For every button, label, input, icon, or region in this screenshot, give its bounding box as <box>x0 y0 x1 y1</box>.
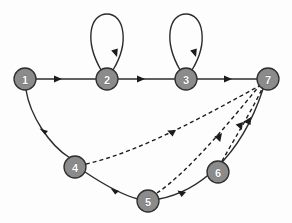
node-1[interactable]: 1 <box>14 68 36 90</box>
edge-3-self-loop[interactable] <box>170 14 202 70</box>
edge-2-self-loop[interactable] <box>91 14 123 70</box>
node-3-label: 3 <box>183 74 189 86</box>
graph-figure: 1 2 3 4 5 6 7 <box>0 0 292 223</box>
edge-5-to-7-solid[interactable] <box>159 89 263 199</box>
arrowhead-2-self-loop <box>111 49 118 57</box>
edge-4-to-7-dashed[interactable] <box>86 86 259 164</box>
node-5[interactable]: 5 <box>137 190 159 212</box>
graph-canvas: 1 2 3 4 5 6 7 <box>0 0 292 223</box>
node-3[interactable]: 3 <box>175 68 197 90</box>
arrowhead-4-to-7-dashed <box>167 130 176 137</box>
arrowhead-1-to-4 <box>40 128 48 134</box>
arrowhead-3-to-7 <box>224 75 232 82</box>
arrowhead-1-to-2 <box>54 75 62 82</box>
edge-3-to-7[interactable] <box>197 75 257 82</box>
arrowhead-3-self-loop <box>190 49 197 57</box>
arrowhead-2-to-3 <box>137 75 145 82</box>
edge-1-to-4[interactable] <box>26 90 70 158</box>
node-4[interactable]: 4 <box>64 156 86 178</box>
node-7[interactable]: 7 <box>257 68 279 90</box>
edge-1-to-2[interactable] <box>36 75 96 82</box>
node-6-label: 6 <box>215 167 221 179</box>
node-5-label: 5 <box>145 196 151 208</box>
edge-2-to-3[interactable] <box>118 75 175 82</box>
node-1-label: 1 <box>22 74 28 86</box>
edge-4-to-5[interactable] <box>85 172 138 199</box>
node-6[interactable]: 6 <box>207 161 229 183</box>
arrowhead-6-to-7-dashed <box>236 122 243 130</box>
node-2[interactable]: 2 <box>96 68 118 90</box>
node-2-label: 2 <box>104 74 110 86</box>
node-4-label: 4 <box>72 162 79 174</box>
node-7-label: 7 <box>265 74 271 86</box>
